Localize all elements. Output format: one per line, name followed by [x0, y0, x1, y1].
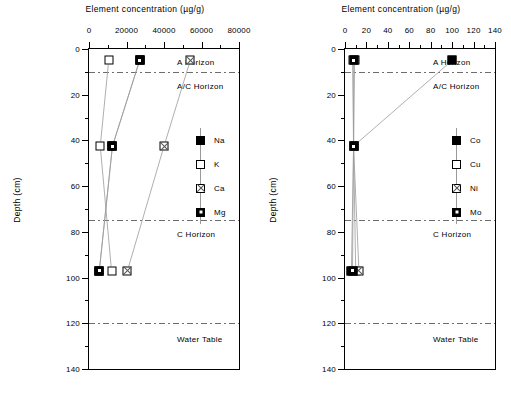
panel-trace-elements: Element concentration (µg/g) Depth (cm) …	[256, 0, 511, 402]
x-tick-major	[474, 42, 475, 48]
x-tick-major	[89, 42, 90, 48]
y-tick-major	[338, 49, 344, 50]
legend-item-co[interactable]: Co	[452, 128, 482, 152]
panel-major-elements: Element concentration (µg/g) Depth (cm) …	[0, 0, 255, 402]
y-tick-minor	[341, 346, 344, 347]
y-tick-label: 40	[310, 136, 336, 145]
y-tick-label: 100	[310, 273, 336, 282]
y-axis-title-right: Depth (cm)	[268, 140, 278, 260]
y-tick-major	[82, 186, 88, 187]
data-point-k	[104, 56, 113, 65]
data-point-mo	[349, 142, 358, 151]
y-tick-minor	[341, 118, 344, 119]
legend-right: CoCuNiMo	[452, 128, 482, 224]
y-tick-minor	[341, 255, 344, 256]
data-point-mo	[349, 56, 358, 65]
x-axis-title-left: Element concentration (µg/g)	[40, 4, 250, 14]
marker-cross-square-icon	[196, 184, 205, 193]
x-tick-minor	[399, 45, 400, 48]
y-tick-label: 20	[310, 90, 336, 99]
data-point-ca	[186, 56, 195, 65]
data-point-mg	[135, 56, 144, 65]
x-tick-major	[452, 42, 453, 48]
y-tick-label: 60	[310, 182, 336, 191]
y-axis-title-left: Depth (cm)	[12, 140, 22, 260]
series-line-ca	[127, 60, 190, 270]
legend-item-k[interactable]: K	[196, 152, 226, 176]
x-tick-major	[345, 42, 346, 48]
y-tick-label: 0	[310, 45, 336, 54]
data-point-mo	[348, 266, 357, 275]
y-tick-minor	[341, 300, 344, 301]
data-point-ca	[123, 266, 132, 275]
x-tick-label: 0	[343, 26, 348, 35]
y-tick-major	[82, 95, 88, 96]
legend-item-na[interactable]: Na	[196, 128, 226, 152]
x-tick-label: 120	[467, 26, 481, 35]
legend-label: Mg	[214, 208, 226, 217]
y-tick-major	[82, 278, 88, 279]
legend-item-mg[interactable]: Mg	[196, 200, 226, 224]
y-tick-minor	[85, 72, 88, 73]
y-tick-minor	[85, 300, 88, 301]
y-tick-minor	[341, 209, 344, 210]
x-tick-label: 140	[488, 26, 502, 35]
figure-root: Element concentration (µg/g) Depth (cm) …	[0, 0, 511, 402]
x-tick-major	[202, 42, 203, 48]
x-tick-label: 20	[362, 26, 371, 35]
y-tick-major	[338, 369, 344, 370]
y-tick-minor	[85, 255, 88, 256]
y-tick-minor	[341, 72, 344, 73]
data-point-co	[448, 56, 457, 65]
data-point-k	[96, 142, 105, 151]
x-tick-minor	[145, 45, 146, 48]
y-tick-label: 80	[310, 227, 336, 236]
data-point-mg	[108, 142, 117, 151]
x-tick-major	[388, 42, 389, 48]
x-axis-title-right: Element concentration (µg/g)	[296, 4, 506, 14]
y-tick-major	[82, 323, 88, 324]
y-tick-label: 40	[54, 136, 80, 145]
legend-label: K	[214, 160, 220, 169]
x-tick-label: 80000	[227, 26, 250, 35]
legend-item-mo[interactable]: Mo	[452, 200, 482, 224]
legend-item-ni[interactable]: Ni	[452, 176, 482, 200]
legend-label: Mo	[470, 208, 482, 217]
y-tick-minor	[85, 209, 88, 210]
x-tick-major	[127, 42, 128, 48]
y-tick-label: 120	[310, 319, 336, 328]
y-tick-label: 80	[54, 227, 80, 236]
x-tick-label: 40	[383, 26, 392, 35]
y-tick-label: 140	[310, 365, 336, 374]
marker-filled-square-icon	[196, 136, 205, 145]
marker-open-square-icon	[196, 160, 205, 169]
marker-cross-square-icon	[452, 184, 461, 193]
x-tick-minor	[183, 45, 184, 48]
y-tick-label: 100	[54, 273, 80, 282]
marker-open-square-icon	[452, 160, 461, 169]
x-tick-label: 20000	[115, 26, 138, 35]
marker-filled-square-icon	[452, 136, 461, 145]
series-line-k	[100, 60, 111, 270]
legend-item-ca[interactable]: Ca	[196, 176, 226, 200]
legend-label: Co	[470, 136, 481, 145]
series-line-co	[351, 60, 452, 270]
legend-label: Na	[214, 136, 225, 145]
legend-item-cu[interactable]: Cu	[452, 152, 482, 176]
x-tick-major	[239, 42, 240, 48]
x-tick-label: 60	[405, 26, 414, 35]
y-tick-label: 60	[54, 182, 80, 191]
x-tick-minor	[463, 45, 464, 48]
y-tick-major	[82, 140, 88, 141]
marker-dot-square-icon	[196, 208, 205, 217]
series-line-ni	[354, 60, 359, 270]
y-tick-major	[82, 232, 88, 233]
x-tick-label: 100	[445, 26, 459, 35]
x-tick-minor	[356, 45, 357, 48]
x-tick-minor	[441, 45, 442, 48]
legend-label: Ca	[214, 184, 225, 193]
x-tick-minor	[484, 45, 485, 48]
data-point-ca	[160, 142, 169, 151]
x-tick-minor	[377, 45, 378, 48]
x-tick-major	[409, 42, 410, 48]
